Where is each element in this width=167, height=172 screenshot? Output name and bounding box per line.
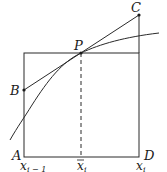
label-p: P (73, 38, 83, 53)
label-c: C (131, 0, 141, 15)
label-x-mid-sub: i (84, 165, 87, 172)
label-b: B (9, 83, 20, 98)
function-curve (10, 33, 159, 140)
label-x-right-sub: i (143, 165, 146, 172)
label-x-mid: x (77, 159, 84, 172)
label-d: D (143, 148, 155, 163)
midpoint-tangent-diagram: B P C A D x i − 1 x i x i (0, 0, 167, 172)
label-x-right: x (136, 159, 143, 172)
label-x-left-sub: i − 1 (27, 165, 46, 172)
label-x-left: x (20, 159, 27, 172)
point-b (22, 88, 25, 91)
